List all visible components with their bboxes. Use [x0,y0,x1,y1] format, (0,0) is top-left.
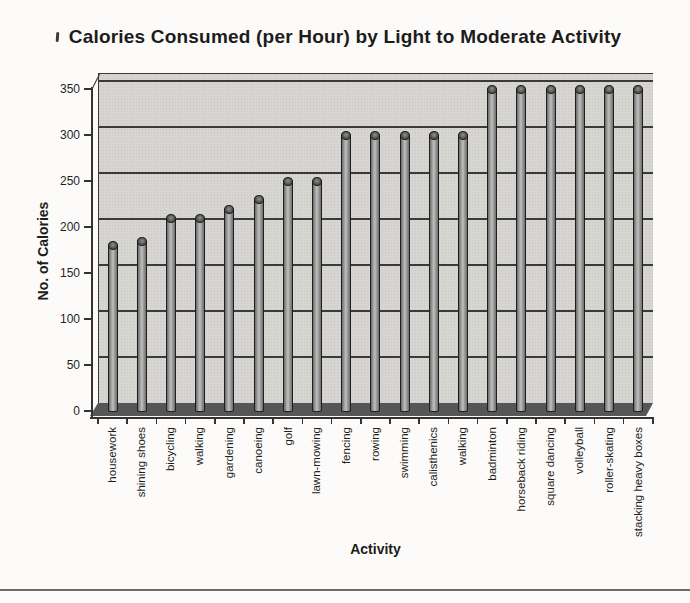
bar [400,133,410,412]
x-tick-label-text: swimming [398,427,411,478]
x-tick [418,417,420,424]
bar-cap [487,85,497,94]
bottom-rule [0,589,690,591]
bar-cap [312,177,322,186]
x-axis-title: Activity [98,541,653,557]
x-tick [652,417,654,424]
x-tick [389,417,391,424]
y-tick [84,134,92,136]
grid-line [98,126,653,128]
x-tick-label-text: gardening [223,427,236,478]
y-tick-label: 300 [36,127,80,143]
x-tick [97,417,99,424]
grid-line [98,80,653,82]
bar-cap [429,131,439,140]
bar-cap [516,85,526,94]
x-tick-label-text: fencing [340,427,353,464]
x-tick-label-text: lawn-mowing [311,427,324,494]
bar-cap [546,85,556,94]
x-tick [214,417,216,424]
y-tick-label: 0 [36,403,80,419]
y-tick-label: 250 [36,173,80,189]
bar [604,87,614,412]
x-tick-label-text: horseback riding [515,427,528,511]
bar-cap [108,241,118,250]
x-tick-label-text: square dancing [544,427,557,506]
bar [108,243,118,412]
x-tick [185,417,187,424]
bar [546,87,556,412]
y-tick-label: 100 [36,311,80,327]
x-tick-label-text: walking [194,427,207,465]
bar [195,216,205,412]
bar-cap [604,85,614,94]
bar [633,87,643,412]
x-tick-label-text: shining shoes [135,427,148,497]
x-tick-label-text: roller-skating [603,427,616,493]
bar [429,133,439,412]
bar [341,133,351,412]
bar-cap [458,131,468,140]
x-tick-label-text: housework [106,427,119,483]
x-tick-label-text: calisthenics [427,427,440,486]
y-tick [84,318,92,320]
bar [137,239,147,412]
bar [575,87,585,412]
x-tick [594,417,596,424]
x-tick-label-text: rowing [369,427,382,461]
scanned-chart-page: Calories Consumed (per Hour) by Light to… [0,0,690,603]
bar [283,179,293,412]
x-tick-label-text: badminton [486,427,499,481]
bar [224,207,234,412]
bar [166,216,176,412]
bar-cap [224,205,234,214]
x-tick-label-text: bicycling [165,427,178,471]
y-tick [84,410,92,412]
x-tick [272,417,274,424]
x-tick [477,417,479,424]
bar [458,133,468,412]
bar-cap [283,177,293,186]
x-tick [535,417,537,424]
bar-cap [633,85,643,94]
y-tick-label: 350 [36,81,80,97]
bar [370,133,380,412]
x-tick [302,417,304,424]
y-tick [84,180,92,182]
bar [487,87,497,412]
y-tick [84,364,92,366]
x-tick-label-text: canoeing [252,427,265,474]
x-tick [126,417,128,424]
x-tick-label-text: walking [457,427,470,465]
y-tick [84,88,92,90]
bar-cap [370,131,380,140]
y-tick [84,226,92,228]
y-tick-label: 200 [36,219,80,235]
bar-cap [195,214,205,223]
bar-cap [400,131,410,140]
x-tick [564,417,566,424]
x-tick [156,417,158,424]
y-tick-label: 50 [36,357,80,373]
x-tick-label-text: volleyball [573,427,586,474]
chart-canvas: 050100150200250300350houseworkshining sh… [0,0,690,603]
y-tick-label: 150 [36,265,80,281]
x-tick [243,417,245,424]
bar [254,197,264,412]
bar [312,179,322,412]
x-tick [506,417,508,424]
y-tick [84,272,92,274]
bar-cap [137,237,147,246]
bar-cap [575,85,585,94]
x-tick-label-text: golf [281,427,294,446]
bar-cap [254,195,264,204]
x-tick-label-text: stacking heavy boxes [632,427,645,537]
x-tick [331,417,333,424]
x-tick [360,417,362,424]
x-tick [623,417,625,424]
bar-cap [341,131,351,140]
x-tick [448,417,450,424]
bar-cap [166,214,176,223]
bar [516,87,526,412]
